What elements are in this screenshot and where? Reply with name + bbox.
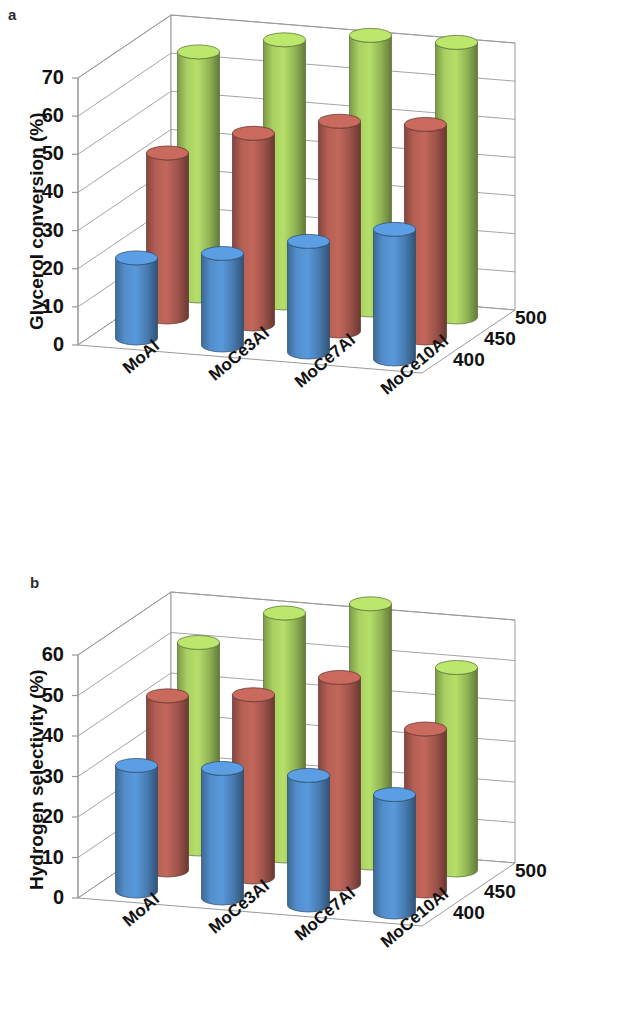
cylinder-top [288, 234, 330, 248]
y-axis-tick-label: 20 [18, 806, 64, 826]
cylinder-bar [288, 234, 330, 359]
cylinder-top [233, 688, 275, 702]
cylinder-bar [374, 788, 416, 919]
y-axis-tick-label: 60 [18, 644, 64, 664]
cylinder-top [436, 35, 478, 49]
cylinder-bar [202, 246, 244, 352]
cylinder-top [374, 222, 416, 236]
y-axis-tick-label: 70 [18, 67, 64, 87]
cylinder-body [288, 775, 330, 912]
y-axis-tick-label: 50 [18, 143, 64, 163]
y-axis-tick-label: 30 [18, 766, 64, 786]
cylinder-top [233, 126, 275, 140]
plot-area-a: 010203040506070400450500MoAlMoCe3AlMoCe7… [0, 0, 626, 520]
cylinder-top [288, 768, 330, 782]
y-axis-tick-label: 40 [18, 181, 64, 201]
cylinder-body [116, 258, 158, 345]
cylinder-bar [288, 768, 330, 912]
cylinder-top [319, 670, 361, 684]
plot-area-b: 0102030405060400450500MoAlMoCe3AlMoCe7Al… [0, 560, 626, 1033]
cylinder-top [202, 761, 244, 775]
panel-a: a Glycerol conversion (%) 01020304050607… [0, 0, 626, 520]
depth-axis-label: 500 [515, 860, 547, 882]
y-axis-tick-label: 20 [18, 258, 64, 278]
cylinder-top [319, 114, 361, 128]
cylinder-top [264, 606, 306, 620]
depth-axis-label: 450 [484, 881, 516, 903]
depth-axis-label: 400 [453, 902, 485, 924]
cylinder-body [374, 795, 416, 919]
cylinder-top [202, 246, 244, 260]
cylinder-body [288, 241, 330, 359]
y-axis-tick-label: 10 [18, 847, 64, 867]
chart-canvas [0, 560, 626, 1033]
cylinder-bar [116, 758, 158, 898]
cylinder-top [264, 33, 306, 47]
y-axis-tick-label: 60 [18, 105, 64, 125]
chart-canvas [0, 0, 626, 520]
cylinder-top [405, 722, 447, 736]
cylinder-bar [374, 222, 416, 366]
cylinder-top [405, 117, 447, 131]
depth-axis-label: 400 [453, 349, 485, 371]
cylinder-body [202, 253, 244, 352]
cylinder-top [116, 758, 158, 772]
depth-axis-label: 450 [484, 328, 516, 350]
cylinder-top [436, 661, 478, 675]
y-axis-tick-label: 30 [18, 220, 64, 240]
cylinder-top [350, 28, 392, 42]
y-axis-tick-label: 50 [18, 685, 64, 705]
cylinder-bar [202, 761, 244, 905]
y-axis-tick-label: 40 [18, 725, 64, 745]
cylinder-body [116, 765, 158, 898]
cylinder-top [147, 146, 189, 160]
cylinder-top [147, 689, 189, 703]
cylinder-bar [116, 251, 158, 345]
cylinder-body [202, 768, 244, 905]
cylinder-body [374, 229, 416, 366]
cylinder-top [178, 635, 220, 649]
y-axis-tick-label: 0 [18, 334, 64, 354]
cylinder-top [374, 788, 416, 802]
cylinder-top [178, 45, 220, 59]
y-axis-tick-label: 0 [18, 887, 64, 907]
cylinder-top [116, 251, 158, 265]
cylinder-top [350, 597, 392, 611]
panel-b: b Hydrogen selectivity (%) 0102030405060… [0, 560, 626, 1033]
y-axis-tick-label: 10 [18, 296, 64, 316]
depth-axis-label: 500 [515, 307, 547, 329]
